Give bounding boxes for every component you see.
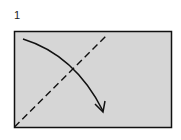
paper-sheet	[15, 32, 172, 128]
fold-diagram	[0, 0, 181, 140]
